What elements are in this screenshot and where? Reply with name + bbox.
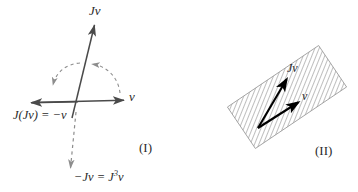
panel-I-caption: (I): [139, 140, 152, 155]
label-minus-jv-base: −Jv = J: [74, 170, 115, 184]
label-v-panel-two: v: [302, 89, 308, 103]
label-j-jv-equals-minus-v: J(Jv) = −v: [13, 108, 67, 122]
panel-II-group: Jv v (II): [227, 46, 346, 158]
svg-text:−Jv = J3v: −Jv = J3v: [74, 168, 124, 184]
rotation-arc-v-to-jv: [92, 64, 120, 93]
minus-v-axis-arrowhead: [31, 102, 78, 103]
panel-II-caption: (II): [315, 143, 332, 158]
label-minus-jv-equals-j3v: −Jv = J3v: [74, 168, 124, 184]
label-jv-panel-two: Jv: [287, 61, 298, 75]
label-minus-jv-tail: v: [118, 170, 124, 184]
label-v-axis: v: [129, 89, 135, 104]
jv-axis-line: [72, 25, 95, 118]
figure-canvas: Jv v J(Jv) = −v −Jv = J3v (I) Jv v (II): [0, 0, 358, 192]
panel-I-group: Jv v J(Jv) = −v −Jv = J3v (I): [13, 3, 152, 184]
geometry-figure: Jv v J(Jv) = −v −Jv = J3v (I) Jv v (II): [0, 0, 358, 192]
label-jv-top: Jv: [89, 3, 101, 18]
minus-jv-dashed-line: [71, 112, 77, 168]
rotation-arc-jv-to-minus-v: [53, 63, 80, 85]
